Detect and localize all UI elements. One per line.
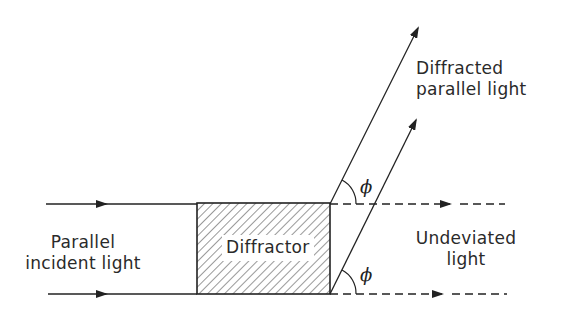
angle-arc-upper bbox=[342, 180, 356, 204]
diffracted-label-line2: parallel light bbox=[416, 79, 527, 100]
incident-label-line1: Parallel bbox=[8, 232, 158, 253]
incident-label-line2: incident light bbox=[8, 253, 158, 274]
incident-light-label: Parallel incident light bbox=[8, 232, 158, 274]
angle-phi-upper: ϕ bbox=[360, 176, 372, 197]
diffractor-label: Diffractor bbox=[226, 237, 310, 258]
undeviated-label-line2: light bbox=[400, 249, 532, 270]
undeviated-label-line1: Undeviated bbox=[400, 228, 532, 249]
diffracted-label-line1: Diffracted bbox=[416, 58, 527, 79]
diffracted-ray-upper bbox=[330, 28, 418, 204]
undeviated-light-label: Undeviated light bbox=[400, 228, 532, 270]
angle-phi-lower: ϕ bbox=[360, 264, 372, 285]
angle-arc-lower bbox=[342, 270, 356, 294]
diffracted-light-label: Diffracted parallel light bbox=[416, 58, 527, 100]
